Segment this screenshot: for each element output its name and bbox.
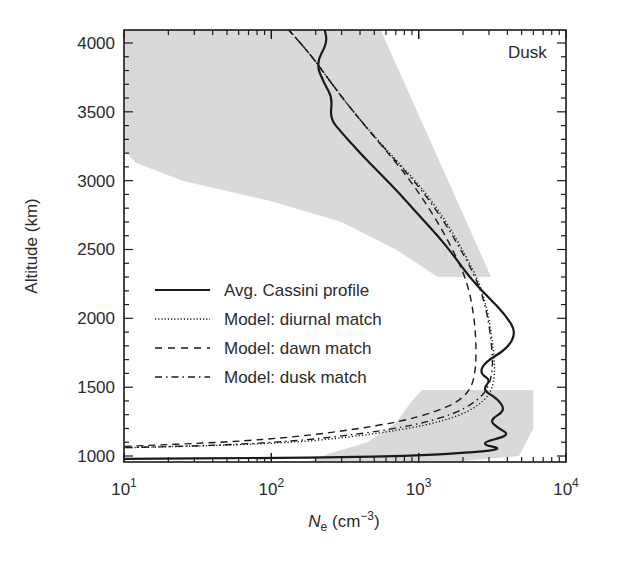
- y-tick-label: 2500: [77, 240, 115, 259]
- x-axis-title-unit-close: ): [374, 512, 380, 531]
- legend-item-dusk: Model: dusk match: [155, 368, 367, 387]
- x-tick-label: 101: [111, 476, 137, 499]
- x-axis-title-unit: (cm: [327, 512, 360, 531]
- annotation-dusk: Dusk: [508, 43, 547, 62]
- legend-item-diurnal: Model: diurnal match: [155, 310, 382, 329]
- y-tick-label: 4000: [77, 34, 115, 53]
- y-axis-title: Altitude (km): [22, 198, 41, 293]
- x-axis-title-unit-exp: −3: [360, 509, 374, 523]
- y-tick-label: 2000: [77, 309, 115, 328]
- y-tick-label: 1000: [77, 447, 115, 466]
- x-tick-label: 103: [406, 476, 432, 499]
- chart: 101102103104 100015002000250030003500400…: [0, 0, 617, 563]
- legend-item-dawn: Model: dawn match: [155, 339, 371, 358]
- legend-label: Model: dawn match: [224, 339, 371, 358]
- legend-label: Model: diurnal match: [224, 310, 382, 329]
- x-axis-title-symbol: N: [308, 512, 321, 531]
- shaded-regions: [124, 29, 533, 461]
- legend: Avg. Cassini profile Model: diurnal matc…: [155, 281, 382, 387]
- legend-item-cassini: Avg. Cassini profile: [155, 281, 369, 300]
- legend-label: Avg. Cassini profile: [224, 281, 369, 300]
- y-tick-label: 1500: [77, 378, 115, 397]
- x-axis-title: Ne (cm−3): [308, 509, 379, 534]
- upper-variability-band: [124, 29, 491, 277]
- y-tick-labels: 1000150020002500300035004000: [77, 34, 115, 466]
- legend-label: Model: dusk match: [224, 368, 367, 387]
- x-tick-labels: 101102103104: [111, 476, 579, 499]
- x-tick-label: 102: [259, 476, 285, 499]
- x-tick-label: 104: [553, 476, 579, 499]
- y-tick-label: 3500: [77, 103, 115, 122]
- y-tick-label: 3000: [77, 172, 115, 191]
